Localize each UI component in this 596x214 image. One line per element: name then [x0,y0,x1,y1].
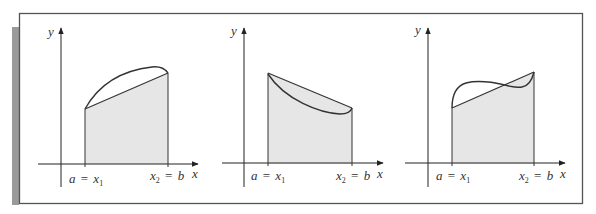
y-axis-label: y [46,24,54,39]
x-axis-label: x [191,166,198,181]
x-axis-label: x [376,166,383,181]
trapezoid-rule-figure: y x a = x1 x2 = b y x a = x1 x2 = [0,0,596,214]
y-axis-label: y [229,23,237,38]
x-axis-label: x [559,166,566,181]
a-eq-x1-label: a = x1 [251,168,285,185]
side-bar [12,27,19,205]
a-eq-x1-label: a = x1 [436,168,470,185]
y-axis-label: y [413,22,421,37]
a-eq-x1-label: a = x1 [69,171,103,188]
